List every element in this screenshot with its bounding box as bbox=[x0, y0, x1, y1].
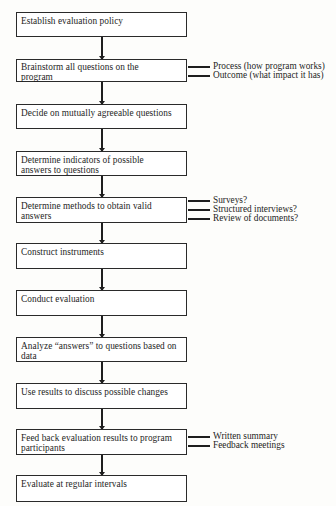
arrow-down-icon bbox=[101, 129, 103, 151]
step-construct-instruments: Construct instruments bbox=[16, 243, 187, 269]
step-conduct-evaluation: Conduct evaluation bbox=[16, 290, 187, 316]
branch-connector bbox=[188, 445, 210, 447]
step-label: Establish evaluation policy bbox=[21, 16, 123, 26]
step-label: Decide on mutually agreeable questions bbox=[21, 108, 172, 118]
step-label: Analyze “answers” to questions based on … bbox=[21, 341, 181, 361]
arrow-down-icon bbox=[101, 269, 103, 290]
step-decide-questions: Decide on mutually agreeable questions bbox=[16, 104, 187, 129]
step-brainstorm-questions: Brainstorm all questions on the program bbox=[16, 59, 187, 82]
step-analyze-answers: Analyze “answers” to questions based on … bbox=[16, 337, 187, 362]
arrow-down-icon bbox=[101, 362, 103, 383]
step-label: Brainstorm all questions on the program bbox=[21, 62, 151, 82]
branch-label-feedback-meetings: Feedback meetings bbox=[213, 441, 285, 450]
step-label: Use results to discuss possible changes bbox=[21, 387, 168, 397]
arrow-down-icon bbox=[101, 455, 103, 475]
step-label: Evaluate at regular intervals bbox=[21, 479, 127, 489]
branch-connector bbox=[188, 66, 210, 68]
branch-connector bbox=[188, 436, 210, 438]
arrow-down-icon bbox=[101, 316, 103, 337]
step-label: Feed back evaluation results to program … bbox=[21, 433, 186, 453]
step-determine-indicators: Determine indicators of possible answers… bbox=[16, 151, 187, 176]
arrow-down-icon bbox=[101, 82, 103, 104]
branch-connector bbox=[188, 209, 210, 211]
step-label: Determine indicators of possible answers… bbox=[21, 155, 161, 175]
step-determine-methods: Determine methods to obtain valid answer… bbox=[16, 197, 187, 223]
branch-label-outcome: Outcome (what impact it has) bbox=[213, 71, 324, 80]
step-evaluate-regularly: Evaluate at regular intervals bbox=[16, 475, 187, 502]
branch-label-documents: Review of documents? bbox=[213, 214, 298, 223]
step-establish-policy: Establish evaluation policy bbox=[16, 12, 187, 37]
branch-connector bbox=[188, 200, 210, 202]
step-discuss-changes: Use results to discuss possible changes bbox=[16, 383, 187, 409]
branch-connector bbox=[188, 75, 210, 77]
step-label: Conduct evaluation bbox=[21, 294, 94, 304]
arrow-down-icon bbox=[101, 223, 103, 243]
arrow-down-icon bbox=[101, 37, 103, 59]
branch-connector bbox=[188, 218, 210, 220]
step-feed-back-results: Feed back evaluation results to program … bbox=[16, 429, 187, 455]
step-label: Determine methods to obtain valid answer… bbox=[21, 201, 166, 221]
arrow-down-icon bbox=[101, 176, 103, 197]
step-label: Construct instruments bbox=[21, 247, 104, 257]
arrow-down-icon bbox=[101, 409, 103, 429]
